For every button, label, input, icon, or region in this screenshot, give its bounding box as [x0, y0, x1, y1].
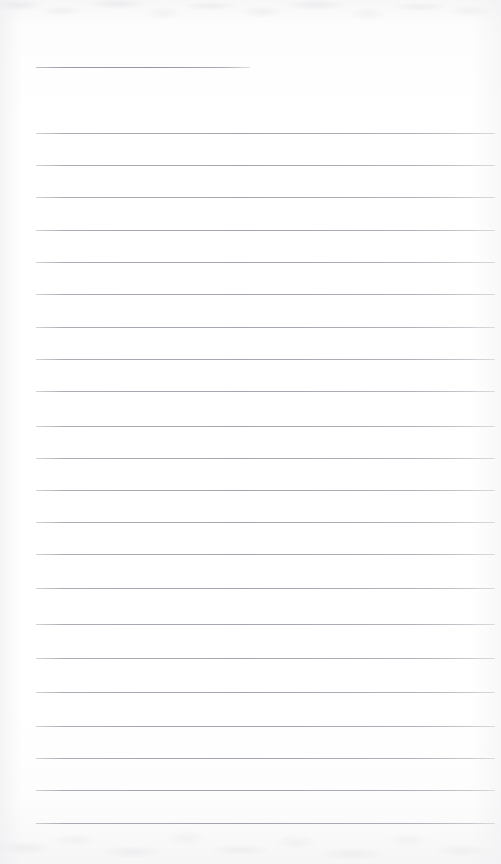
rule-line [36, 294, 495, 295]
rule-line [36, 327, 495, 328]
rule-line [36, 658, 495, 659]
rule-line [36, 391, 495, 392]
rule-line [36, 522, 495, 523]
rule-line [36, 458, 495, 459]
rule-line [36, 490, 495, 491]
rule-line [36, 823, 495, 824]
rule-line [36, 624, 495, 625]
rule-line [36, 790, 495, 791]
rule-line [36, 554, 495, 555]
rule-line [36, 133, 495, 134]
rule-line [36, 165, 495, 166]
rule-line [36, 197, 495, 198]
rule-line [36, 359, 495, 360]
rule-line [36, 426, 495, 427]
rule-line [36, 758, 495, 759]
rule-line [36, 726, 495, 727]
ruled-lines-layer [0, 0, 501, 864]
rule-line [36, 230, 495, 231]
rule-line [36, 588, 495, 589]
rule-line [36, 692, 495, 693]
scanned-page [0, 0, 501, 864]
rule-line [36, 67, 250, 68]
rule-line [36, 262, 495, 263]
